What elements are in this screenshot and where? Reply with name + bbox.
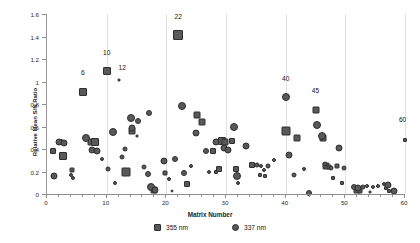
x-tick <box>225 194 226 198</box>
data-point <box>376 184 380 188</box>
data-point <box>282 93 290 101</box>
data-point <box>207 170 211 174</box>
data-point <box>113 181 117 185</box>
x-tick-label: 60 <box>401 199 408 206</box>
x-axis-title: Matrix Number <box>0 211 420 218</box>
data-point <box>163 170 168 175</box>
gridline <box>226 14 227 194</box>
data-point <box>146 110 152 116</box>
data-point <box>340 181 344 185</box>
legend-item-337[interactable]: 337 nm <box>232 224 266 231</box>
scatter-chart: Relative Mean S/N Ratio 00.20.40.60.811.… <box>0 0 420 243</box>
data-point <box>167 177 171 181</box>
data-point <box>184 181 190 187</box>
data-point <box>181 170 187 176</box>
data-point <box>365 184 369 188</box>
data-point <box>331 176 335 180</box>
data-point <box>121 167 130 176</box>
data-point <box>243 142 250 149</box>
circle-marker-icon <box>232 224 239 231</box>
legend: 355 nm 337 nm <box>0 224 420 231</box>
x-tick <box>82 194 83 197</box>
x-tick <box>261 194 262 197</box>
data-point <box>100 157 104 161</box>
x-tick <box>70 194 71 197</box>
data-point <box>230 123 238 131</box>
y-tick-label: 0.2 <box>0 168 39 175</box>
data-point <box>216 166 222 172</box>
x-tick <box>380 194 381 197</box>
data-point <box>79 88 87 96</box>
x-tick-label: 10 <box>102 199 109 206</box>
y-tick-label: 1.4 <box>0 33 39 40</box>
x-tick <box>94 194 95 197</box>
data-point <box>334 163 339 168</box>
data-point <box>135 118 141 124</box>
data-point <box>151 186 158 193</box>
data-point <box>50 173 57 180</box>
data-point <box>127 114 135 122</box>
x-tick <box>404 194 405 198</box>
x-tick <box>320 194 321 197</box>
data-point <box>263 174 267 178</box>
data-point <box>294 134 301 141</box>
data-point <box>193 130 200 137</box>
data-point <box>224 147 231 154</box>
y-tick-label: 0.6 <box>0 123 39 130</box>
legend-label-337: 337 nm <box>244 224 266 231</box>
point-annotation: 22 <box>175 13 182 20</box>
data-point <box>285 151 292 158</box>
data-point <box>292 172 297 177</box>
data-point <box>117 79 120 82</box>
x-tick <box>106 194 107 198</box>
data-point <box>313 121 321 129</box>
point-annotation: 45 <box>312 87 319 94</box>
x-tick <box>273 194 274 197</box>
data-point <box>229 138 235 144</box>
data-point <box>136 134 139 137</box>
point-annotation: 10 <box>103 49 110 56</box>
square-marker-icon <box>154 224 161 231</box>
x-tick <box>141 194 142 197</box>
gridline <box>166 14 167 194</box>
data-point <box>60 140 67 147</box>
legend-item-355[interactable]: 355 nm <box>154 224 188 231</box>
y-tick-label: 0 <box>0 191 39 198</box>
gridline <box>286 14 287 194</box>
data-point <box>145 171 151 177</box>
data-point <box>109 128 117 136</box>
data-point <box>281 127 290 136</box>
x-tick <box>153 194 154 197</box>
x-tick <box>189 194 190 197</box>
data-point <box>258 173 262 177</box>
data-point <box>123 147 128 152</box>
legend-label-355: 355 nm <box>166 224 188 231</box>
data-point <box>210 148 216 154</box>
data-point <box>403 138 407 142</box>
point-annotation: 40 <box>282 75 289 82</box>
data-point <box>198 119 205 126</box>
data-point <box>369 190 372 193</box>
gridline <box>405 14 406 194</box>
x-tick <box>177 194 178 197</box>
data-point <box>93 148 100 155</box>
data-point <box>212 139 219 146</box>
x-tick <box>344 194 345 198</box>
x-tick <box>165 194 166 198</box>
data-point <box>106 167 111 172</box>
x-tick <box>237 194 238 197</box>
data-point <box>50 148 56 154</box>
x-tick-label: 30 <box>222 199 229 206</box>
x-tick <box>46 194 47 198</box>
data-point <box>141 165 146 170</box>
data-point <box>160 158 167 165</box>
x-tick <box>118 194 119 197</box>
x-tick <box>332 194 333 197</box>
data-point <box>189 164 193 168</box>
y-tick-label: 1.6 <box>0 11 39 18</box>
data-point <box>272 158 276 162</box>
data-point <box>259 164 263 168</box>
data-point <box>233 172 241 180</box>
x-tick-label: 50 <box>341 199 348 206</box>
plot-area: 6101222404560 <box>46 14 404 194</box>
